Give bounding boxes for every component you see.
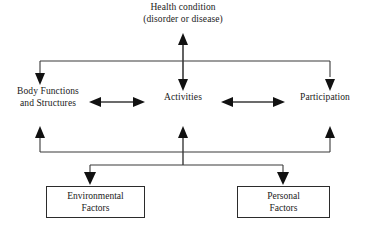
node-activities: Activities [139,92,227,104]
health-condition-line-1: Health condition [113,2,253,14]
health-condition-line-2: (disorder or disease) [113,14,253,26]
node-health-condition: Health condition (disorder or disease) [113,2,253,25]
body-functions-line-1: Body Functions [2,86,94,98]
node-participation: Participation [285,92,365,104]
arrow-down-to-activities [178,79,188,91]
icf-diagram: Health condition (disorder or disease) B… [0,0,366,226]
arrow-right-to-participation [273,97,285,107]
personal-factors-line-2: Factors [270,202,298,214]
arrow-down-to-body-functions [35,73,45,85]
arrow-down-to-environmental-factors [84,172,96,185]
activities-line-1: Activities [139,92,227,104]
node-body-functions-and-structures: Body Functions and Structures [2,86,94,109]
arrow-up-to-health-condition [178,33,188,45]
box-personal-factors: Personal Factors [237,186,330,218]
body-functions-line-2: and Structures [2,98,94,110]
participation-line-1: Participation [285,92,365,104]
environmental-factors-line-1: Environmental [67,190,123,202]
environmental-factors-line-2: Factors [82,202,110,214]
arrow-down-to-participation [325,79,335,91]
box-environmental-factors: Environmental Factors [46,186,145,218]
arrow-down-to-personal-factors [277,172,289,185]
arrow-up-to-body-functions [35,126,45,138]
arrow-up-to-activities [178,126,188,138]
personal-factors-line-1: Personal [267,190,300,202]
arrow-up-to-participation [325,126,335,138]
